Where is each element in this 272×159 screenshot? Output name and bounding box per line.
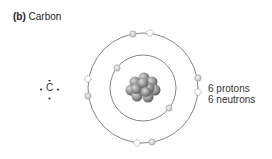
particle-labels: 6 protons 6 neutrons <box>208 83 255 105</box>
protons-label: 6 protons <box>208 83 255 94</box>
nucleus-icon <box>126 73 161 103</box>
neutrons-label: 6 neutrons <box>208 94 255 105</box>
bohr-model-diagram <box>0 0 272 159</box>
